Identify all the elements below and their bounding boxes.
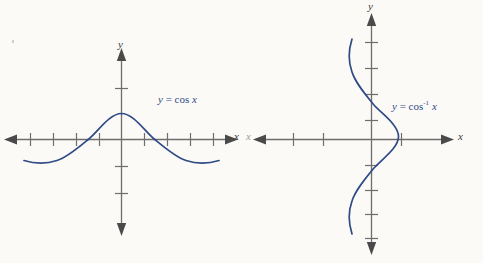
cosine-equation-arg: x	[192, 93, 197, 105]
cosine-axes	[11, 54, 231, 230]
arccosine-x-axis-label-left: x	[246, 131, 251, 142]
arccosine-x-axis-label-right: x	[458, 131, 463, 142]
arccosine-equation-exponent: -1	[423, 99, 429, 107]
arccosine-equation-eq: =	[397, 100, 409, 112]
arccosine-x-axis-arrow-right	[441, 135, 454, 145]
cosine-equation-eq: =	[163, 93, 175, 105]
cosine-graph-panel: y x y = cos x	[0, 0, 242, 263]
cosine-equation-fn: cos	[175, 93, 190, 105]
cosine-y-axis-arrow-down	[117, 223, 126, 236]
arccosine-axis-arrowheads	[253, 13, 454, 255]
arccosine-graph-svg	[242, 0, 483, 263]
cosine-x-axis-arrow-left	[4, 135, 17, 145]
arccosine-graph-panel: y x x y = cos-1 x	[242, 0, 483, 263]
arccosine-equation-fn: cos	[409, 100, 424, 112]
arccosine-equation-arg: x	[432, 100, 437, 112]
arccosine-y-axis-arrow-down	[367, 242, 376, 255]
arccosine-y-axis-arrow-up	[367, 13, 376, 26]
cosine-y-axis-label: y	[118, 39, 123, 50]
arccosine-x-axis-arrow-left	[253, 135, 266, 145]
cosine-x-axis-label: x	[234, 131, 239, 142]
arccosine-equation-label: y = cos-1 x	[392, 100, 437, 112]
arccosine-y-axis-label: y	[368, 1, 373, 12]
arccosine-axes	[260, 20, 448, 248]
cosine-equation-label: y = cos x	[158, 94, 197, 105]
trig-graphs-figure: y x y = cos x	[0, 0, 483, 263]
